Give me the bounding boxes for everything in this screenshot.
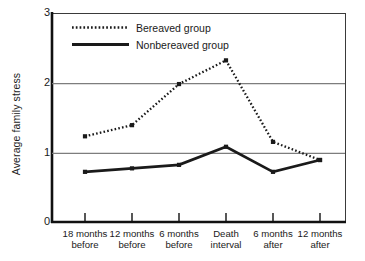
x-label-6-months-before: 6 monthsbefore bbox=[159, 228, 198, 251]
data-point bbox=[177, 82, 181, 86]
chart-figure: Average family stress 3 2 1 0 bbox=[0, 0, 365, 261]
x-label-line1: 12 months bbox=[298, 228, 343, 239]
data-point bbox=[318, 158, 322, 162]
data-point bbox=[271, 170, 275, 174]
x-label-line2: before bbox=[165, 239, 192, 250]
data-point bbox=[271, 140, 275, 144]
x-label-12-months-after: 12 monthsafter bbox=[298, 228, 343, 251]
x-label-line1: 6 months bbox=[159, 228, 198, 239]
x-label-line1: Death bbox=[213, 228, 239, 239]
data-point bbox=[130, 166, 134, 170]
x-label-line2: before bbox=[71, 239, 98, 250]
x-label-6-months-after: 6 monthsafter bbox=[253, 228, 292, 251]
data-point bbox=[224, 145, 228, 149]
x-label-line1: 12 months bbox=[110, 228, 155, 239]
legend-label-bereaved: Bereaved group bbox=[136, 22, 211, 34]
data-point bbox=[83, 134, 87, 138]
x-label-line1: 18 months bbox=[63, 228, 108, 239]
data-point bbox=[177, 163, 181, 167]
x-label-line2: before bbox=[118, 239, 145, 250]
y-axis-tick-labels: 3 2 1 0 bbox=[28, 0, 50, 261]
data-point bbox=[83, 170, 87, 174]
x-label-line2: after bbox=[263, 239, 282, 250]
x-label-death-interval: Deathinterval bbox=[211, 228, 242, 251]
data-point bbox=[224, 58, 228, 62]
x-label-12-months-before: 12 monthsbefore bbox=[110, 228, 155, 251]
y-tick-1: 1 bbox=[36, 147, 50, 158]
x-label-18-months-before: 18 monthsbefore bbox=[63, 228, 108, 251]
y-axis-title: Average family stress bbox=[10, 44, 22, 204]
y-tick-3: 3 bbox=[36, 7, 50, 18]
legend-label-nonbereaved: Nonbereaved group bbox=[136, 39, 229, 51]
x-label-line2: after bbox=[310, 239, 329, 250]
x-label-line1: 6 months bbox=[253, 228, 292, 239]
chart-canvas: Bereaved group Nonbereaved group bbox=[0, 0, 365, 261]
y-tick-0: 0 bbox=[36, 216, 50, 227]
y-tick-2: 2 bbox=[36, 77, 50, 88]
x-label-line2: interval bbox=[211, 239, 242, 250]
data-point bbox=[130, 123, 134, 127]
